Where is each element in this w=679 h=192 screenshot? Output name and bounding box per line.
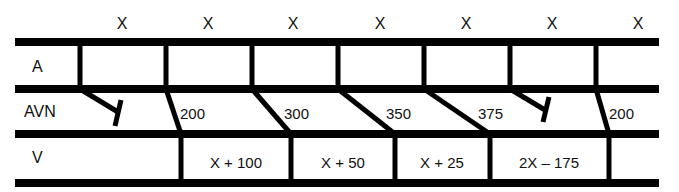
ventricular-interval-label: X + 25 [420, 154, 464, 171]
conduction-time-label: 300 [284, 105, 309, 122]
conduction-time-label: 375 [478, 105, 503, 122]
atrial-interval-labels: X X X X X X X [117, 15, 644, 32]
avn-block-bar-1 [115, 100, 121, 126]
atrial-interval-label: X [633, 15, 644, 32]
atrial-interval-label: X [117, 15, 128, 32]
conduction-time-label: 200 [180, 105, 205, 122]
ventricular-interval-label: X + 100 [210, 154, 262, 171]
avn-conduction-labels: 200 300 350 375 200 [180, 105, 634, 122]
atrial-interval-label: X [375, 15, 386, 32]
avn-block-bar-2 [543, 97, 549, 122]
atrial-interval-label: X [547, 15, 558, 32]
ladder-diagram: A AVN V X X X X X X X 200 300 350 375 20… [0, 0, 679, 192]
atrial-interval-label: X [203, 15, 214, 32]
bottom-boundary-line [15, 179, 659, 187]
ventricular-interval-label: 2X – 175 [519, 154, 579, 171]
atrial-interval-label: X [288, 15, 299, 32]
atrial-interval-label: X [461, 15, 472, 32]
avn-conducted-5 [596, 89, 609, 134]
row-label-a: A [32, 58, 43, 75]
row-label-avn: AVN [24, 103, 56, 120]
avn-conduction [80, 89, 609, 134]
row-label-v: V [32, 149, 43, 166]
atrial-activations [80, 42, 596, 89]
avn-conducted-1 [166, 89, 181, 134]
avn-v-boundary-line [15, 130, 659, 138]
conduction-time-label: 200 [609, 105, 634, 122]
conduction-time-label: 350 [386, 105, 411, 122]
ventricular-interval-label: X + 50 [321, 154, 365, 171]
